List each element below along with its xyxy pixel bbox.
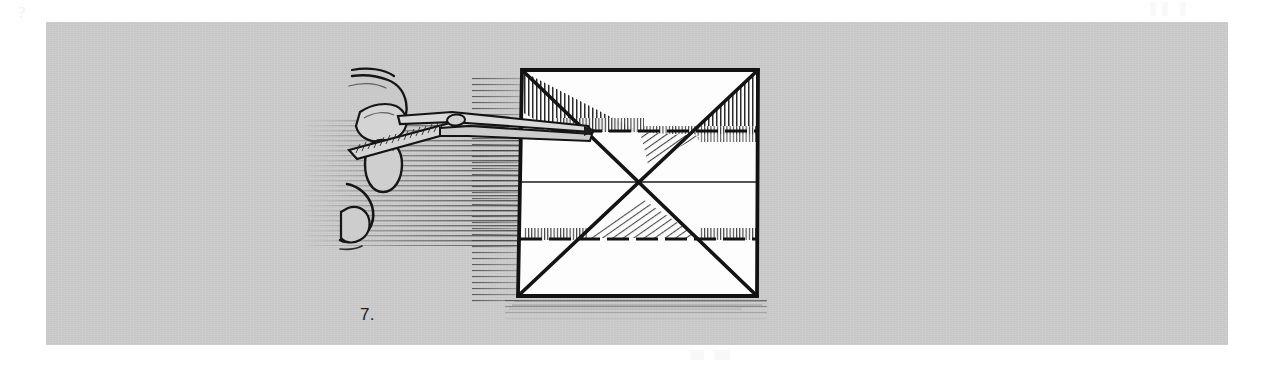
tool-pivot [447,114,466,126]
page-root: ? [0,0,1280,366]
origami-step-illustration [0,0,1280,366]
paper-bottom-shadow [505,298,767,320]
figure-number-caption: 7. [360,305,375,325]
paper-sheet [518,70,758,296]
